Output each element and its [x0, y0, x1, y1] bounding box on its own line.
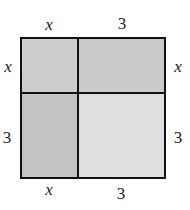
horizontal-divider [20, 92, 166, 94]
right-label-x: x [174, 58, 182, 75]
vertical-divider [77, 37, 79, 179]
bottom-label-3: 3 [117, 185, 126, 202]
bottom-label-x: x [45, 181, 53, 198]
top-label-x: x [45, 16, 53, 33]
top-label-3: 3 [118, 15, 127, 32]
right-label-3: 3 [174, 129, 183, 146]
outer-square [20, 37, 166, 179]
left-label-3: 3 [3, 129, 12, 146]
left-label-x: x [4, 58, 12, 75]
